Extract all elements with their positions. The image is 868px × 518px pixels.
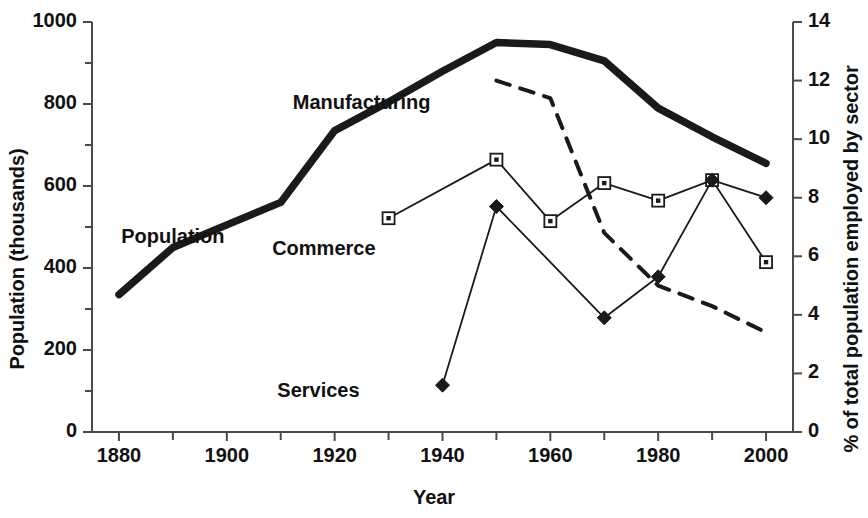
marker-open-square-center bbox=[494, 157, 498, 161]
marker-open-square-center bbox=[656, 198, 660, 202]
y-tick-label-left: 1000 bbox=[7, 9, 77, 32]
y-tick-label-right: 4 bbox=[808, 302, 848, 325]
series-annotation-manufacturing: Manufacturing bbox=[293, 91, 431, 114]
y-tick-label-right: 14 bbox=[808, 9, 848, 32]
y-tick-label-right: 0 bbox=[808, 419, 848, 442]
marker-filled-diamond bbox=[651, 270, 665, 284]
y-tick-label-right: 10 bbox=[808, 126, 848, 149]
x-axis-title: Year bbox=[0, 486, 868, 509]
chart-figure: Population (thousands) % of total popula… bbox=[0, 0, 868, 518]
y-tick-label-left: 0 bbox=[7, 419, 77, 442]
x-tick-label: 1960 bbox=[510, 444, 590, 467]
y-tick-label-left: 600 bbox=[7, 173, 77, 196]
x-tick-label: 1880 bbox=[79, 444, 159, 467]
x-tick-label: 1940 bbox=[403, 444, 483, 467]
y-tick-label-left: 200 bbox=[7, 337, 77, 360]
x-tick-label: 1980 bbox=[618, 444, 698, 467]
series-layer bbox=[119, 43, 773, 393]
series-annotation-population: Population bbox=[121, 225, 224, 248]
x-tick-label: 1920 bbox=[295, 444, 375, 467]
marker-open-square-center bbox=[548, 219, 552, 223]
marker-filled-diamond bbox=[436, 378, 450, 392]
y-tick-label-right: 8 bbox=[808, 185, 848, 208]
series-annotation-commerce: Commerce bbox=[272, 237, 375, 260]
marker-filled-diamond bbox=[759, 191, 773, 205]
marker-open-square-center bbox=[602, 181, 606, 185]
y-tick-label-right: 2 bbox=[808, 360, 848, 383]
y-tick-label-left: 400 bbox=[7, 255, 77, 278]
marker-open-square-center bbox=[386, 216, 390, 220]
y-tick-label-left: 800 bbox=[7, 91, 77, 114]
marker-open-square-center bbox=[764, 260, 768, 264]
x-tick-label: 1900 bbox=[187, 444, 267, 467]
y-tick-label-right: 6 bbox=[808, 243, 848, 266]
plot-area bbox=[0, 0, 868, 518]
x-tick-label: 2000 bbox=[726, 444, 806, 467]
y-tick-label-right: 12 bbox=[808, 68, 848, 91]
series-line-services bbox=[443, 180, 767, 385]
series-annotation-services: Services bbox=[277, 379, 359, 402]
